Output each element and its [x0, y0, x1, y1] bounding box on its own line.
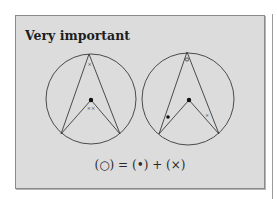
left-central-mark: ×× [87, 105, 95, 111]
right-angle-cross-mark: × [205, 112, 209, 118]
right-center-dot [187, 98, 191, 102]
left-inscribed-mark: × [87, 61, 91, 67]
angle-formula: (○) = (•) + (×) [16, 158, 264, 172]
page-margin-rule [272, 14, 273, 199]
right-left-angle-dot [166, 115, 170, 119]
important-box: Very important × ×× × (○) = (•) + (×) [15, 15, 265, 189]
left-center-dot [89, 98, 93, 102]
